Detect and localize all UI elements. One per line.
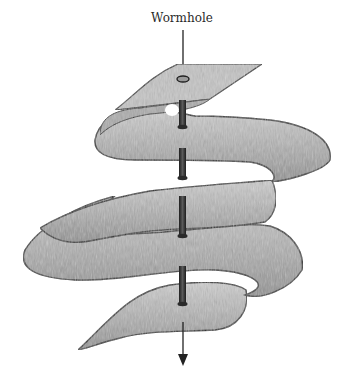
tube-segment-3: [179, 196, 186, 236]
tube-segment-4: [179, 266, 186, 304]
gap-highlight: [165, 104, 179, 116]
wormhole-mouth: [177, 76, 189, 82]
tube-segment-2: [179, 148, 186, 178]
tube-segment-1: [179, 100, 186, 128]
sheet-bottom: [78, 282, 247, 350]
arrow-down-icon: [178, 354, 188, 366]
helix-diagram: [0, 0, 350, 383]
sheet-upper-loop: [95, 109, 330, 182]
